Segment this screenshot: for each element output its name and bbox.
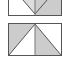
split-v-shape-icon[interactable] xyxy=(8,0,62,16)
split-inverted-v-shape-icon[interactable] xyxy=(8,23,62,56)
icon-caption: ........ xyxy=(6,60,62,64)
